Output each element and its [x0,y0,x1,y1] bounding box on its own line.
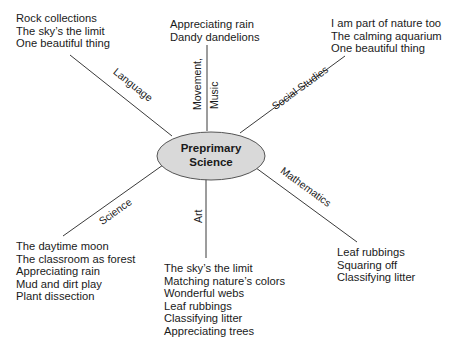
list-item: One beautiful thing [331,42,442,55]
list-item: Rock collections [16,12,110,25]
connector-mathematics [252,165,357,242]
items-social-studies: I am part of nature too The calming aqua… [331,17,442,55]
center-node-label: Preprimary Science [157,142,265,169]
list-item: Classifying litter [337,271,415,284]
list-item: Squaring off [337,259,415,272]
list-item: Appreciating rain [170,18,260,31]
list-item: Plant dissection [16,290,135,303]
items-movement-music: Appreciating rain Dandy dandelions [170,18,260,43]
items-art: The sky’s the limit Matching nature’s co… [164,262,285,338]
list-item: Matching nature’s colors [164,275,285,288]
list-item: Wonderful webs [164,287,285,300]
list-item: I am part of nature too [331,17,442,30]
list-item: Dandy dandelions [170,31,260,44]
list-item: The classroom as forest [16,253,135,266]
items-language: Rock collections The sky’s the limit One… [16,12,110,50]
items-science: The daytime moon The classroom as forest… [16,240,135,303]
center-line-2: Science [157,156,265,170]
list-item: The sky’s the limit [164,262,285,275]
items-mathematics: Leaf rubbings Squaring off Classifying l… [337,246,415,284]
branch-label-art: Art [193,210,204,223]
connector-science [63,165,163,236]
list-item: Classifying litter [164,312,285,325]
branch-label-movement: Movement, [192,58,203,110]
list-item: One beautiful thing [16,37,110,50]
list-item: Leaf rubbings [164,300,285,313]
list-item: The calming aquarium [331,30,442,43]
list-item: The daytime moon [16,240,135,253]
branch-label-music: Music [209,82,220,109]
list-item: Appreciating rain [16,265,135,278]
list-item: Mud and dirt play [16,278,135,291]
center-line-1: Preprimary [157,142,265,156]
list-item: Appreciating trees [164,325,285,338]
list-item: Leaf rubbings [337,246,415,259]
list-item: The sky’s the limit [16,25,110,38]
